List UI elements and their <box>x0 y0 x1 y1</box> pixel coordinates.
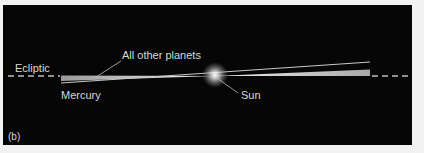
orbital-planes-diagram <box>0 0 424 153</box>
panel-label: (b) <box>8 131 20 143</box>
leader-line-all-other-planets <box>96 61 121 77</box>
sun-glow <box>202 62 228 88</box>
sun-label: Sun <box>241 89 261 101</box>
all-other-planets-label: All other planets <box>122 49 201 61</box>
ecliptic-label: Ecliptic <box>15 62 50 74</box>
mercury-label: Mercury <box>61 89 101 101</box>
